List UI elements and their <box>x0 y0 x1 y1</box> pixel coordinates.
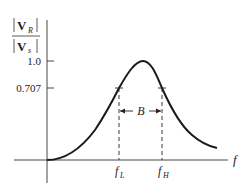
tick-label-0-707: 0.707 <box>16 82 41 94</box>
arrow-right-icon <box>156 109 161 114</box>
y-axis-label: V R V s <box>12 18 40 55</box>
arrow-left-icon <box>120 109 125 114</box>
tick-label-1-0: 1.0 <box>27 55 41 67</box>
frequency-response-diagram: V R V s 1.0 0.707 B f L f H f <box>0 0 249 191</box>
response-curve <box>47 61 217 160</box>
bandwidth-label: B <box>137 104 145 118</box>
y-label-numerator-sub: R <box>27 26 33 35</box>
y-label-denominator: V <box>17 39 27 54</box>
x-axis-label: f <box>233 152 239 167</box>
bandwidth-indicator: B <box>120 104 161 118</box>
y-label-denominator-sub: s <box>28 46 31 55</box>
fH-label-sub: H <box>162 171 170 180</box>
y-label-numerator: V <box>17 18 27 33</box>
fL-label-sub: L <box>119 171 125 180</box>
